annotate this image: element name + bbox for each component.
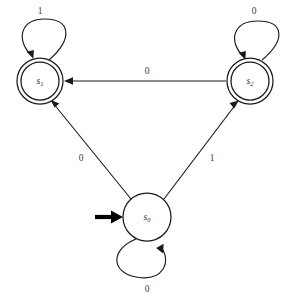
edge-s0-to-s2-line bbox=[164, 104, 236, 199]
self-loop-s1: 1 bbox=[22, 6, 66, 60]
edge-s0-to-s2-arrowhead bbox=[230, 100, 239, 108]
edge-label-s1-self-loop: 1 bbox=[38, 6, 43, 16]
start-arrow-head bbox=[111, 211, 123, 224]
edge-label-s0-to-s1: 0 bbox=[79, 153, 84, 163]
self-loop-s2: 0 bbox=[235, 6, 279, 60]
edge-s0-to-s1: 0 bbox=[50, 100, 131, 199]
self-loop-s0-arrowhead bbox=[156, 244, 163, 254]
edge-label-s0-to-s2: 1 bbox=[210, 153, 215, 163]
self-loop-s0-path bbox=[117, 239, 166, 278]
state-s1-label-subscript: 1 bbox=[40, 80, 43, 87]
fsm-canvas: 0 0 1 1 0 0 bbox=[0, 0, 288, 302]
edge-label-s0-self-loop: 0 bbox=[145, 284, 150, 294]
self-loop-s0: 0 bbox=[117, 239, 166, 294]
state-node-s1[interactable]: s1 bbox=[17, 58, 63, 104]
state-node-s2[interactable]: s2 bbox=[227, 58, 273, 104]
edge-s2-to-s1-arrowhead bbox=[64, 77, 73, 84]
edge-s0-to-s2: 1 bbox=[164, 100, 239, 199]
edge-s0-to-s1-line bbox=[53, 103, 131, 199]
fsm-diagram: 0 0 1 1 0 0 bbox=[0, 0, 288, 302]
state-node-s0[interactable]: s0 bbox=[123, 193, 171, 241]
start-arrow bbox=[95, 211, 123, 224]
edge-s2-to-s1: 0 bbox=[64, 66, 226, 85]
edge-label-s2-self-loop: 0 bbox=[252, 6, 257, 16]
edge-label-s2-to-s1: 0 bbox=[145, 66, 150, 76]
